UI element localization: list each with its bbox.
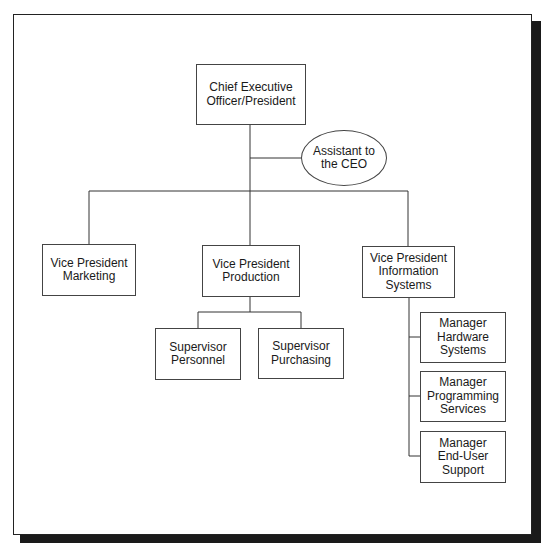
node-ceo: Chief Executive Officer/President — [196, 64, 306, 125]
node-mgr-enduser: Manager End-User Support — [420, 431, 506, 483]
node-vp-is-label: Vice President Information Systems — [370, 252, 447, 293]
node-mgr-hardware-label: Manager Hardware Systems — [437, 317, 489, 358]
node-sup-purchasing-label: Supervisor Purchasing — [271, 340, 331, 367]
node-vp-is: Vice President Information Systems — [362, 246, 455, 298]
node-vp-production: Vice President Production — [202, 245, 300, 297]
node-sup-personnel-label: Supervisor Personnel — [169, 341, 226, 368]
node-mgr-programming: Manager Programming Services — [420, 371, 506, 422]
node-vp-production-label: Vice President Production — [212, 258, 289, 285]
node-sup-personnel: Supervisor Personnel — [155, 328, 241, 380]
node-ceo-label: Chief Executive Officer/President — [206, 81, 295, 108]
node-mgr-enduser-label: Manager End-User Support — [438, 437, 489, 478]
node-vp-marketing-label: Vice President Marketing — [50, 257, 127, 284]
node-mgr-programming-label: Manager Programming Services — [427, 376, 499, 417]
node-assistant-label: Assistant to the CEO — [313, 145, 375, 172]
node-assistant: Assistant to the CEO — [301, 130, 387, 186]
node-mgr-hardware: Manager Hardware Systems — [420, 312, 506, 363]
node-sup-purchasing: Supervisor Purchasing — [258, 328, 344, 379]
node-vp-marketing: Vice President Marketing — [42, 244, 136, 296]
